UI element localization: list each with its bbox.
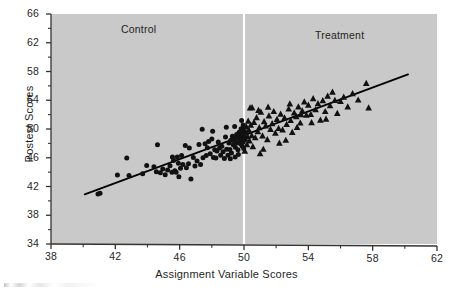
treatment-point: [295, 103, 302, 109]
control-point: [175, 155, 180, 160]
control-point: [232, 124, 237, 129]
control-point: [179, 153, 184, 158]
control-point: [144, 163, 149, 168]
plot-canvas: [51, 14, 437, 244]
scan-artifact: [4, 283, 100, 287]
control-point: [98, 191, 103, 196]
treatment-point: [301, 98, 308, 104]
treatment-point: [274, 116, 281, 122]
control-point: [216, 139, 221, 144]
control-point: [187, 146, 192, 151]
control-point: [239, 118, 244, 123]
treatment-point: [365, 104, 372, 110]
control-points-group: [95, 118, 246, 197]
treatment-point: [355, 96, 362, 102]
treatment-point: [334, 110, 341, 116]
treatment-point: [270, 108, 277, 114]
control-point: [235, 147, 240, 152]
treatment-point: [282, 137, 289, 143]
control-point: [186, 161, 191, 166]
treatment-point: [322, 108, 329, 114]
control-point: [229, 151, 234, 156]
control-point: [160, 166, 165, 171]
control-point: [176, 174, 181, 179]
x-tick-label: 42: [102, 251, 128, 262]
control-point: [219, 144, 224, 149]
control-point: [223, 134, 228, 139]
plot-area: [51, 14, 437, 244]
x-axis-title: Assignment Variable Scores: [0, 268, 453, 280]
control-group-label: Control: [121, 23, 156, 35]
control-point: [124, 156, 129, 161]
treatment-point: [317, 117, 324, 123]
treatment-group-label: Treatment: [315, 29, 364, 41]
control-point: [210, 129, 215, 134]
treatment-point: [253, 114, 260, 120]
control-point: [168, 163, 173, 168]
control-point: [140, 171, 145, 176]
control-point: [228, 156, 233, 161]
control-point: [209, 137, 214, 142]
x-tick-label: 62: [424, 253, 450, 264]
treatment-point: [349, 90, 356, 96]
treatment-point: [261, 118, 268, 124]
control-point: [196, 142, 201, 147]
control-point: [174, 170, 179, 175]
treatment-point: [265, 104, 272, 110]
control-point: [191, 155, 196, 160]
treatment-point: [287, 100, 294, 106]
control-point: [236, 152, 241, 157]
treatment-point: [264, 136, 271, 142]
control-point: [188, 176, 193, 181]
treatment-points-group: [241, 80, 371, 156]
treatment-point: [310, 95, 317, 101]
control-point: [205, 145, 210, 150]
control-point: [127, 173, 132, 178]
y-tick-label: 38: [17, 209, 39, 220]
treatment-point: [363, 80, 370, 86]
control-point: [171, 158, 176, 163]
control-point: [176, 161, 181, 166]
treatment-point: [276, 140, 283, 146]
control-point: [200, 127, 205, 132]
control-point: [115, 173, 120, 178]
treatment-point: [260, 146, 267, 152]
y-axis-title: Postest Scores: [23, 44, 35, 204]
regression-discontinuity-figure: 343842465054586266 38424650545862 Assign…: [0, 0, 453, 291]
treatment-point: [329, 88, 336, 94]
control-point: [198, 162, 203, 167]
control-point: [151, 164, 156, 169]
control-point: [192, 164, 197, 169]
control-point: [163, 172, 168, 177]
control-point: [165, 167, 170, 172]
treatment-point: [323, 115, 330, 121]
x-tick-label: 50: [231, 252, 257, 263]
x-tick-label: 54: [295, 252, 321, 263]
treatment-point: [344, 103, 351, 109]
x-tick-label: 38: [38, 251, 64, 262]
treatment-point: [297, 119, 304, 125]
treatment-point: [308, 119, 315, 125]
control-point: [224, 125, 229, 130]
treatment-point: [277, 110, 284, 116]
treatment-point: [256, 124, 263, 130]
control-point: [213, 156, 218, 161]
x-tick-label: 46: [167, 252, 193, 263]
control-point: [155, 142, 160, 147]
x-tick-label: 58: [360, 253, 386, 264]
control-point: [195, 158, 200, 163]
treatment-point: [250, 143, 257, 149]
x-axis-spine: [51, 244, 437, 246]
y-tick-label: 34: [17, 238, 39, 249]
y-tick-label: 66: [17, 8, 39, 19]
